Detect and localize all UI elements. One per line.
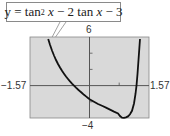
xmin-label: −1.57 <box>1 80 26 91</box>
ymax-label: 6 <box>86 24 92 35</box>
xmax-label: 1.57 <box>150 80 169 91</box>
ymin-label: −4 <box>82 120 93 131</box>
plot-area <box>0 0 170 136</box>
